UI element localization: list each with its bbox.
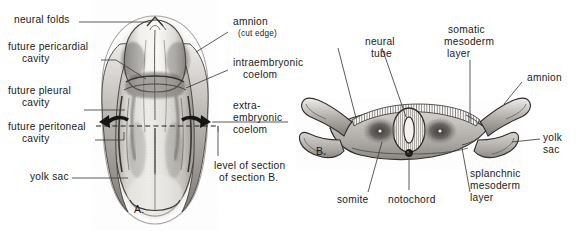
- label-notochord: notochord: [388, 194, 436, 207]
- label-somatic-mesoderm-layer-line3: layer: [447, 48, 470, 61]
- label-yolk-sac-b-line2: sac: [543, 144, 560, 157]
- label-future-pleural-cavity-line2: cavity: [22, 97, 50, 110]
- label-extra: extra-: [233, 100, 261, 113]
- label-coelom: coelom: [233, 124, 267, 137]
- label-splanchnic-mesoderm-layer-line3: layer: [470, 192, 493, 205]
- label-future-pleural-cavity: future pleural: [8, 85, 71, 98]
- label-splanchnic-mesoderm-layer-line2: mesoderm: [470, 180, 520, 193]
- label-amnion-cut-edge-sub: (cut edge): [238, 28, 277, 41]
- label-future-peritoneal-cavity-line2: cavity: [22, 133, 50, 146]
- label-splanchnic-mesoderm-layer: splanchnic: [470, 168, 521, 181]
- label-future-pericardial-cavity-line2: cavity: [22, 53, 50, 66]
- label-amnion-cut-edge: amnion: [233, 16, 268, 29]
- label-somatic-mesoderm-layer: somatic: [448, 24, 485, 37]
- label-level-of-section-line2: of section B.: [219, 172, 278, 185]
- label-intraembryonic-coelom: intraembryonic: [233, 57, 303, 70]
- label-somatic-mesoderm-layer-line2: mesoderm: [444, 36, 494, 49]
- label-level-of-section: level of section: [214, 160, 285, 173]
- label-embryonic: embryonic: [233, 112, 282, 125]
- panel-letter-a: A.: [134, 203, 145, 215]
- label-future-peritoneal-cavity: future peritoneal: [8, 121, 86, 134]
- label-yolk-sac-a: yolk sac: [30, 171, 69, 184]
- label-neural-folds: neural folds: [14, 14, 70, 27]
- label-yolk-sac-b: yolk: [543, 132, 562, 145]
- label-somite: somite: [337, 194, 369, 207]
- label-amnion-b: amnion: [527, 72, 562, 85]
- panel-letter-b: B.: [316, 145, 327, 157]
- label-neural-tube: neural: [365, 36, 395, 49]
- label-intraembryonic-coelom-line2: coelom: [243, 69, 277, 82]
- label-future-pericardial-cavity: future pericardial: [8, 41, 88, 54]
- label-neural-tube-line2: tube: [371, 48, 392, 61]
- embryo-figure: neural folds future pericardial cavity f…: [0, 0, 577, 231]
